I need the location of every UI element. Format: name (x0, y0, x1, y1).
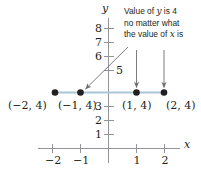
point-label-1-4: (1, 4) (122, 100, 152, 111)
x-axis-label: x (184, 139, 190, 150)
y-axis-label: y (102, 3, 108, 14)
value-of-y-callout: Value of y is 4 no matter what the value… (124, 6, 183, 41)
point-label-neg2-4: (−2, 4) (8, 100, 47, 111)
x-tick-label-neg2: −2 (45, 155, 61, 166)
callout-line-2: no matter what (124, 18, 183, 30)
callout-line-3: the value of x is (124, 29, 183, 41)
point-label-neg1-4: (−1, 4) (58, 100, 97, 111)
x-tick-label-neg1: −1 (73, 155, 89, 166)
point-2-4 (161, 89, 168, 96)
y-tick-label-7: 7 (95, 37, 102, 48)
callout-line-1: Value of y is 4 (124, 6, 183, 18)
y-tick-label-2: 2 (95, 115, 102, 126)
x-tick-label-1: 1 (134, 155, 141, 166)
x-tick-label-2: 2 (162, 155, 169, 166)
y-tick-label-8: 8 (95, 23, 102, 34)
point-label-2-4: (2, 4) (166, 100, 196, 111)
callout-line-3-suffix: is (175, 29, 183, 39)
point-1-4 (133, 89, 140, 96)
y-tick-label-1: 1 (95, 129, 102, 140)
callout-line-1-suffix: is 4 (162, 6, 177, 16)
callout-line-1-prefix: Value of (124, 6, 156, 16)
graph-figure: y x 8 7 6 5 3 2 1 −2 −1 1 2 (−2, 4) (−1,… (0, 0, 201, 175)
callout-line-3-prefix: the value of (124, 29, 170, 39)
point-neg1-4 (77, 89, 84, 96)
y-tick-label-5: 5 (116, 65, 123, 76)
y-tick-label-6: 6 (95, 51, 102, 62)
point-neg2-4 (52, 89, 59, 96)
